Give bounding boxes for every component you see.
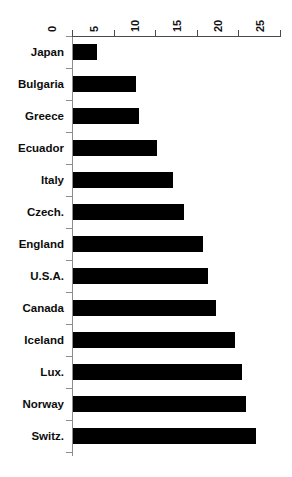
bar-row: Japan [0, 44, 292, 76]
x-tick-label: 0 [47, 2, 77, 32]
category-label: Switz. [0, 428, 64, 444]
bar-row: Ecuador [0, 140, 292, 172]
bar-row: U.S.A. [0, 268, 292, 300]
x-tick-label: 25 [255, 2, 285, 32]
category-label: England [0, 236, 64, 252]
bar [73, 44, 97, 60]
bar-row: Greece [0, 108, 292, 140]
bar [73, 236, 203, 252]
bar-row: Norway [0, 396, 292, 428]
bar [73, 396, 246, 412]
bar [73, 428, 256, 444]
bar [73, 76, 136, 92]
category-label: U.S.A. [0, 268, 64, 284]
category-label: Czech. [0, 204, 64, 220]
category-label: Bulgaria [0, 76, 64, 92]
y-tick-mark [66, 36, 72, 37]
x-axis-line [72, 36, 281, 37]
category-label: Norway [0, 396, 64, 412]
category-label: Italy [0, 172, 64, 188]
bar [73, 364, 242, 380]
bar-row: Lux. [0, 364, 292, 396]
bar [73, 268, 208, 284]
bar-row: Switz. [0, 428, 292, 460]
bar-row: Bulgaria [0, 76, 292, 108]
category-label: Canada [0, 300, 64, 316]
category-label: Iceland [0, 332, 64, 348]
x-tick-label: 10 [130, 2, 160, 32]
bar [73, 204, 184, 220]
bar [73, 300, 216, 316]
bar-row: Czech. [0, 204, 292, 236]
bar-row: Canada [0, 300, 292, 332]
category-label: Lux. [0, 364, 64, 380]
bar [73, 140, 157, 156]
bar-chart: 0510152025 JapanBulgariaGreeceEcuadorIta… [0, 0, 292, 477]
bar [73, 332, 235, 348]
x-tick-label: 5 [89, 2, 119, 32]
category-label: Japan [0, 44, 64, 60]
bar [73, 108, 139, 124]
bar-row: Italy [0, 172, 292, 204]
bar [73, 172, 173, 188]
category-label: Greece [0, 108, 64, 124]
x-tick-label: 15 [172, 2, 202, 32]
x-tick-label: 20 [213, 2, 243, 32]
bar-row: Iceland [0, 332, 292, 364]
bar-row: England [0, 236, 292, 268]
category-label: Ecuador [0, 140, 64, 156]
